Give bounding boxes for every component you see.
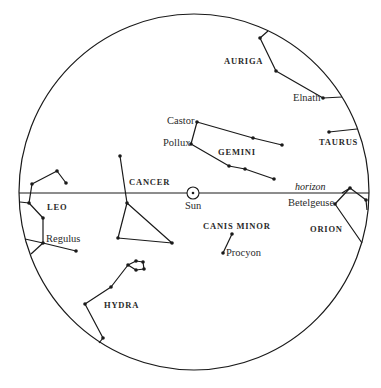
constellation-label-canis-minor: CANIS MINOR	[203, 222, 271, 231]
star-dot	[227, 164, 231, 168]
star-dot	[195, 120, 199, 124]
star-chart	[0, 0, 381, 388]
star-dot	[109, 285, 113, 289]
star-dot	[55, 169, 59, 173]
constellation-line-cancer	[118, 203, 172, 243]
constellation-line-taurus	[329, 129, 357, 132]
star-dot	[251, 136, 255, 140]
star-label-castor: Castor	[167, 116, 194, 127]
star-dot	[116, 236, 120, 240]
star-dot	[134, 268, 138, 272]
star-dot	[274, 69, 278, 73]
star-dot	[134, 259, 138, 263]
sun-icon	[187, 187, 199, 199]
constellation-line-leo	[25, 239, 43, 243]
constellation-label-cancer: CANCER	[129, 178, 170, 187]
star-dot	[74, 249, 78, 253]
star-dot	[142, 267, 146, 271]
star-dot	[118, 154, 122, 158]
star-dot	[170, 241, 174, 245]
star-dot	[27, 201, 31, 205]
horizon-label: horizon	[295, 182, 326, 192]
star-dot	[141, 260, 145, 264]
constellation-label-auriga: AURIGA	[224, 57, 263, 66]
star-dot	[258, 36, 262, 40]
constellation-line-cancer	[120, 156, 127, 203]
star-dot	[272, 177, 276, 181]
star-dot	[83, 302, 87, 306]
constellation-label-leo: LEO	[47, 203, 67, 212]
constellation-label-orion: ORION	[310, 225, 343, 234]
star-dot	[41, 216, 45, 220]
star-dot	[126, 263, 130, 267]
star-dot	[348, 186, 352, 190]
star-dot	[101, 336, 105, 340]
star-label-elnath: Elnath	[293, 93, 320, 104]
sun-label: Sun	[185, 201, 201, 212]
star-dot	[364, 198, 368, 202]
star-dot	[125, 201, 129, 205]
constellation-label-taurus: TAURUS	[319, 138, 358, 147]
constellation-line-leo	[31, 243, 43, 254]
constellation-label-gemini: GEMINI	[218, 148, 256, 157]
star-dot	[280, 143, 284, 147]
star-dot	[243, 167, 247, 171]
star-label-regulus: Regulus	[46, 234, 80, 245]
star-dot	[30, 182, 34, 186]
star-label-pollux: Pollux	[163, 138, 190, 149]
star-dot	[221, 251, 225, 255]
star-dot	[230, 232, 234, 236]
constellation-label-hydra: HYDRA	[104, 301, 139, 310]
constellation-line-auriga	[260, 31, 342, 98]
star-label-betelgeuse: Betelgeuse	[288, 198, 334, 209]
star-label-procyon: Procyon	[226, 248, 261, 259]
constellation-line-orion	[335, 188, 362, 243]
star-dot	[41, 241, 45, 245]
star-dot	[64, 181, 68, 185]
star-dot	[327, 130, 331, 134]
star-dot	[321, 96, 325, 100]
constellation-line-orion	[342, 188, 367, 210]
